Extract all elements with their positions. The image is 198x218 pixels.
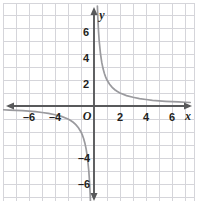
x-tick-label--4: –4 (49, 111, 62, 123)
y-tick-label--6: –6 (78, 178, 90, 190)
y-tick-label--4: –4 (78, 152, 91, 164)
y-tick-label-6: 6 (83, 26, 89, 38)
y-axis-label: y (97, 8, 105, 22)
x-tick-label-2: 2 (117, 111, 123, 123)
x-tick-label--6: –6 (23, 111, 35, 123)
graph-figure: –6 –4 2 4 6 6 4 2 –4 –6 O x y (0, 0, 198, 218)
coordinate-plane: –6 –4 2 4 6 6 4 2 –4 –6 O x y (0, 0, 198, 218)
origin-label: O (83, 109, 92, 123)
y-tick-label-2: 2 (83, 78, 89, 90)
y-tick-label-4: 4 (83, 52, 90, 64)
x-axis-label: x (184, 109, 191, 123)
x-tick-label-6: 6 (169, 111, 175, 123)
x-tick-label-4: 4 (143, 111, 150, 123)
